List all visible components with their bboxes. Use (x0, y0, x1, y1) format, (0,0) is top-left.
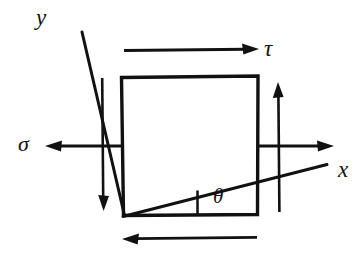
y-axis-label: y (36, 6, 46, 29)
tau-right-shaft (278, 95, 279, 212)
tau-top-shaft (124, 49, 246, 50)
diagram-background (0, 0, 364, 258)
x-axis-label: x (338, 158, 348, 181)
tau-left-shaft (102, 78, 103, 198)
normal-stress-label: σ (18, 133, 29, 155)
tau-bottom-shaft (135, 237, 257, 238)
diagram-canvas (0, 0, 364, 258)
angle-label: θ (213, 186, 223, 207)
shear-stress-label: τ (264, 37, 272, 60)
